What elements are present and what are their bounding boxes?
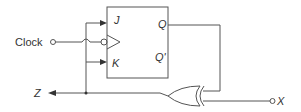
- x-input-terminal: [270, 99, 275, 104]
- k-label: K: [112, 57, 120, 69]
- clock-inversion-bubble: [101, 39, 107, 45]
- clock-label: Clock: [15, 36, 43, 48]
- q-label: Q: [158, 18, 167, 30]
- z-arrow-icon: [48, 90, 56, 96]
- junction-dot: [85, 92, 88, 95]
- circuit-diagram: Clock J K Q Q' Z X: [0, 0, 301, 112]
- j-arrow-icon: [100, 20, 107, 26]
- k-arrow-icon: [100, 59, 107, 65]
- x-label: X: [276, 95, 285, 107]
- clock-wire: [56, 39, 102, 42]
- q-bar-label: Q': [155, 51, 167, 63]
- feedback-wire-j: [86, 23, 104, 93]
- clock-triangle-icon: [107, 35, 120, 49]
- clock-input-terminal: [51, 40, 56, 45]
- xor-gate-extra-curve: [200, 86, 204, 106]
- z-label: Z: [33, 87, 42, 99]
- xor-gate-body: [168, 86, 200, 106]
- q-output-wire: [168, 25, 220, 91]
- z-output-wire: [56, 93, 168, 96]
- j-label: J: [113, 14, 120, 26]
